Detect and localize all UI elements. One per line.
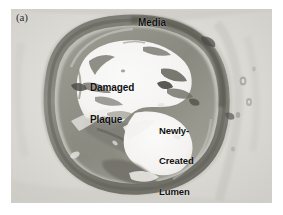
label-newly-created-lumen-line1: Newly- (159, 126, 194, 136)
label-newly-created-lumen: Newly- Created Lumen (159, 106, 194, 215)
label-newly-created-lumen-line3: Lumen (159, 187, 194, 197)
label-damaged-plaque: Damaged Plaque (90, 62, 134, 147)
label-damaged-plaque-line1: Damaged (90, 83, 134, 94)
label-damaged-plaque-line2: Plaque (90, 115, 134, 126)
label-media: Media (138, 18, 166, 29)
micrograph-canvas (11, 9, 272, 203)
panel-label: (a) (16, 12, 28, 23)
histology-micrograph-image (11, 9, 272, 203)
figure-root: (a) Media Damaged Plaque Newly- Created … (0, 0, 283, 215)
label-newly-created-lumen-line2: Created (159, 156, 194, 166)
film-grain-overlay (11, 9, 272, 203)
